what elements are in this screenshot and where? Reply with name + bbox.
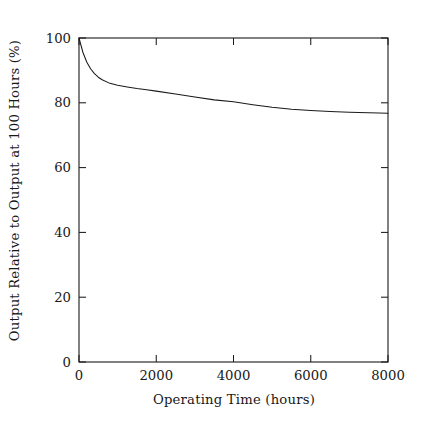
x-tick-label: 0 <box>75 368 83 383</box>
chart-figure: Output Relative to Output at 100 Hours (… <box>0 0 421 426</box>
x-tick-label: 4000 <box>217 368 251 383</box>
y-tick-label: 40 <box>54 225 71 240</box>
plot-canvas: 020406080100 02000400060008000 <box>0 0 421 426</box>
y-tick-label: 100 <box>46 31 71 46</box>
x-tick-label: 8000 <box>371 368 405 383</box>
y-axis-ticks: 020406080100 <box>46 31 388 370</box>
x-tick-label: 6000 <box>294 368 328 383</box>
y-tick-label: 80 <box>54 95 71 110</box>
x-axis-title-text: Operating Time (hours) <box>153 392 315 407</box>
x-axis-title: Operating Time (hours) <box>79 392 389 407</box>
x-axis-ticks: 02000400060008000 <box>75 38 405 383</box>
y-tick-label: 0 <box>63 355 71 370</box>
y-tick-label: 60 <box>54 160 71 175</box>
x-tick-label: 2000 <box>139 368 173 383</box>
y-tick-label: 20 <box>54 290 71 305</box>
data-line-relative-light-output <box>79 38 388 113</box>
